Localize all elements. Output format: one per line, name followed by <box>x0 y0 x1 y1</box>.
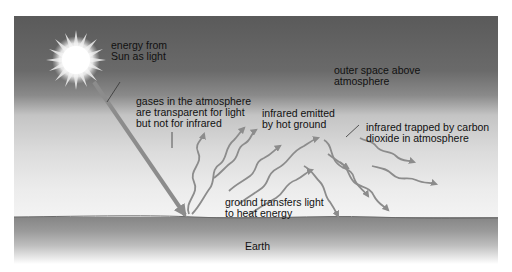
leader-line-trapped <box>346 125 359 137</box>
label-infrared-emitted: infrared emitted by hot ground <box>262 108 335 130</box>
label-earth: Earth <box>245 241 270 252</box>
sun-icon <box>46 30 106 90</box>
label-infrared-trapped: infrared trapped by carbon dioxide in at… <box>366 122 489 144</box>
leader-line-sun <box>107 82 120 102</box>
label-sun-energy: energy from Sun as light <box>111 40 167 62</box>
greenhouse-diagram: energy from Sun as light gases in the at… <box>14 16 498 264</box>
label-gases-transparent: gases in the atmosphere are transparent … <box>136 96 251 129</box>
label-ground-transfers: ground transfers light to heat energy <box>225 197 324 219</box>
label-outer-space: outer space above atmosphere <box>334 65 420 87</box>
